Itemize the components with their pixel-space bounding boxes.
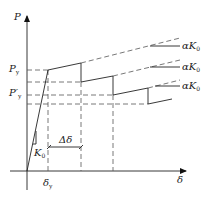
delta-step-label: Δδ (59, 135, 72, 145)
pyprime-label: P′y (9, 88, 21, 99)
alpha-k0-label-3: αK0 (182, 81, 200, 92)
diagram-graphic (0, 0, 214, 198)
delta-y-label: δy (43, 178, 52, 189)
ext-line-2 (113, 60, 180, 76)
ext-line-1 (81, 38, 180, 63)
hardening-2 (81, 76, 113, 82)
y-axis-label: P (14, 12, 21, 22)
k0-label: K0 (34, 148, 45, 159)
py-label: Py (9, 64, 19, 75)
alpha-k0-label-1: αK0 (182, 41, 200, 52)
hardening-4 (148, 99, 172, 104)
alpha-k0-label-2: αK0 (182, 62, 200, 73)
ext-line-3 (148, 80, 180, 88)
hardening-1 (48, 63, 81, 70)
hardening-3 (113, 88, 148, 95)
diagram-canvas: P δ Py P′y αK0 αK0 αK0 K0 Δδ δy (0, 0, 214, 198)
x-axis-label: δ (177, 175, 183, 185)
